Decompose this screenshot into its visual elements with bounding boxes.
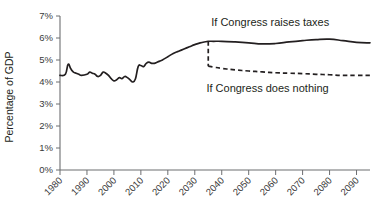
- y-tick-label: 0%: [39, 164, 53, 175]
- y-tick-label: 6%: [39, 32, 53, 43]
- y-tick-label: 5%: [39, 54, 53, 65]
- y-tick-label: 2%: [39, 120, 53, 131]
- line-chart: 0%1%2%3%4%5%6%7% 19801990200020102020203…: [0, 0, 375, 215]
- y-tick-label: 3%: [39, 98, 53, 109]
- does-nothing-label: If Congress does nothing: [206, 82, 328, 94]
- raises-taxes-label: If Congress raises taxes: [211, 16, 329, 28]
- y-tick-label: 7%: [39, 10, 53, 21]
- y-tick-label: 4%: [39, 76, 53, 87]
- chart-container: 0%1%2%3%4%5%6%7% 19801990200020102020203…: [0, 0, 375, 215]
- y-axis-title: Percentage of GDP: [3, 51, 15, 142]
- y-tick-label: 1%: [39, 142, 53, 153]
